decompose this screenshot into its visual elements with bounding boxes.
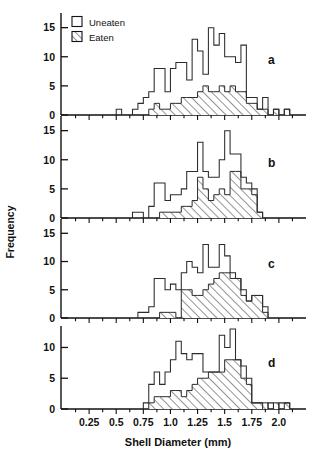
x-tick-label: 1.5 [217,416,232,428]
y-tick-label: 10 [43,51,55,63]
figure-container: 051015a051015b051015c0510d0.250.50.751.0… [0,0,319,453]
x-tick-label: 1.25 [187,416,208,428]
histogram-figure: 051015a051015b051015c0510d0.250.50.751.0… [0,0,319,453]
panel-letter-d: d [268,356,275,370]
panel-a: 051015a [43,13,306,121]
x-tick-label: 2.0 [272,416,287,428]
legend-label-eaten: Eaten [89,32,114,43]
x-axis-title: Shell Diameter (mm) [125,436,232,448]
y-tick-label: 5 [49,372,55,384]
y-tick-label: 15 [43,227,55,239]
legend-swatch-uneaten [72,17,82,27]
series-eaten [149,86,290,115]
panel-group: 051015a051015b051015c0510d0.250.50.751.0… [43,13,306,428]
y-tick-label: 0 [49,109,55,121]
y-tick-label: 5 [49,80,55,92]
y-tick-label: 10 [43,255,55,267]
panel-letter-b: b [268,156,275,170]
y-tick-label: 5 [49,284,55,296]
x-tick-label: 0.75 [133,416,154,428]
panel-letter-c: c [268,257,275,271]
legend-swatch-eaten [72,32,82,42]
y-tick-label: 10 [43,341,55,353]
legend: Uneaten Eaten [72,17,125,43]
legend-label-uneaten: Uneaten [89,17,125,28]
panel-b: 051015b [43,116,306,224]
x-tick-label: 1.75 [242,416,263,428]
y-tick-label: 0 [49,403,55,415]
x-tick-label: 0.25 [79,416,100,428]
y-tick-label: 10 [43,154,55,166]
x-axis-tick-labels: 0.250.50.751.01.251.51.752.0 [79,416,286,428]
x-tick-label: 0.5 [109,416,124,428]
panel-c: 051015c [43,219,306,324]
y-tick-label: 15 [43,124,55,136]
y-tick-label: 5 [49,183,55,195]
y-tick-label: 0 [49,312,55,324]
x-tick-label: 1.0 [163,416,178,428]
y-tick-label: 15 [43,21,55,33]
y-axis-title: Frequency [4,205,16,258]
y-tick-label: 0 [49,212,55,224]
panel-letter-a: a [268,53,275,67]
panel-d: 0510d [43,326,306,415]
